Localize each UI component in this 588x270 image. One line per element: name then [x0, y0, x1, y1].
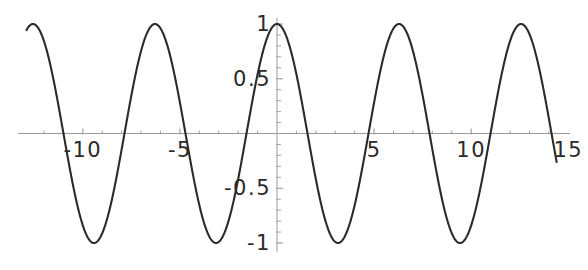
y-tick-label: 1: [256, 14, 271, 35]
x-tick-label: 5: [367, 140, 382, 161]
x-axis-group: [18, 129, 570, 135]
plot-figure: -10-551015 10.5-0.5-1: [0, 0, 588, 270]
y-tick-label: -1: [247, 233, 271, 254]
y-tick-label: -0.5: [224, 178, 271, 199]
x-tick-label: 15: [553, 140, 583, 161]
x-tick-label: -5: [168, 140, 192, 161]
y-tick-label: 0.5: [233, 68, 271, 89]
y-axis-group: [276, 18, 283, 252]
plot-canvas: [0, 0, 588, 270]
x-tick-label: 10: [456, 140, 486, 161]
x-tick-label: -10: [63, 140, 102, 161]
